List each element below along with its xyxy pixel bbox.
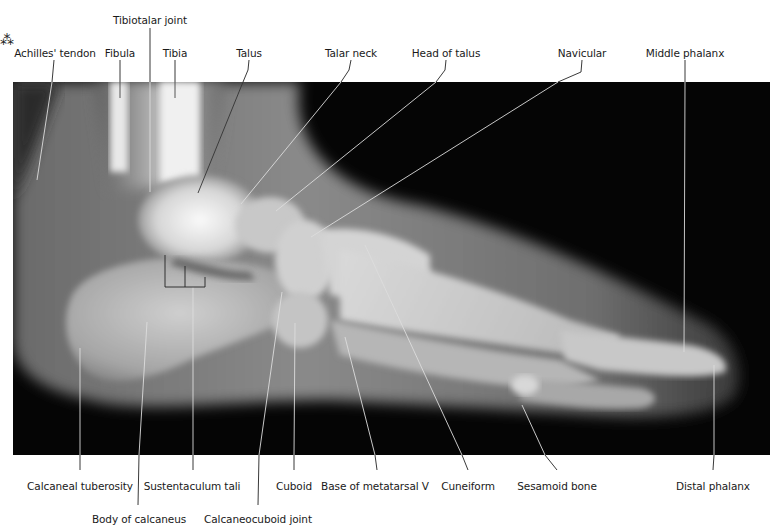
label-navicular: Navicular <box>558 47 607 59</box>
label-cuboid: Cuboid <box>276 480 312 492</box>
xray-figure: ⁂ Tibiotalar joint Achilles' tendon Fibu… <box>0 0 772 528</box>
label-talar-neck: Talar neck <box>325 47 377 59</box>
label-tibiotalar-joint: Tibiotalar joint <box>113 14 187 26</box>
label-achilles-tendon: Achilles' tendon <box>14 47 96 59</box>
corner-mark-icon: ⁂ <box>0 32 14 48</box>
label-distal-phalanx: Distal phalanx <box>676 480 750 492</box>
label-sesamoid-bone: Sesamoid bone <box>517 480 597 492</box>
label-talus: Talus <box>236 47 262 59</box>
label-sustentaculum-tali: Sustentaculum tali <box>144 480 241 492</box>
label-tibia: Tibia <box>163 47 188 59</box>
label-head-of-talus: Head of talus <box>412 47 481 59</box>
foot-xray-image <box>0 0 772 528</box>
label-fibula: Fibula <box>105 47 135 59</box>
label-calcaneal-tuberosity: Calcaneal tuberosity <box>27 480 133 492</box>
label-body-of-calcaneus: Body of calcaneus <box>92 513 186 525</box>
label-cuneiform: Cuneiform <box>441 480 495 492</box>
label-middle-phalanx: Middle phalanx <box>646 47 725 59</box>
label-calcaneocuboid-joint: Calcaneocuboid joint <box>204 513 312 525</box>
label-base-of-metatarsal-v: Base of metatarsal V <box>321 480 429 492</box>
